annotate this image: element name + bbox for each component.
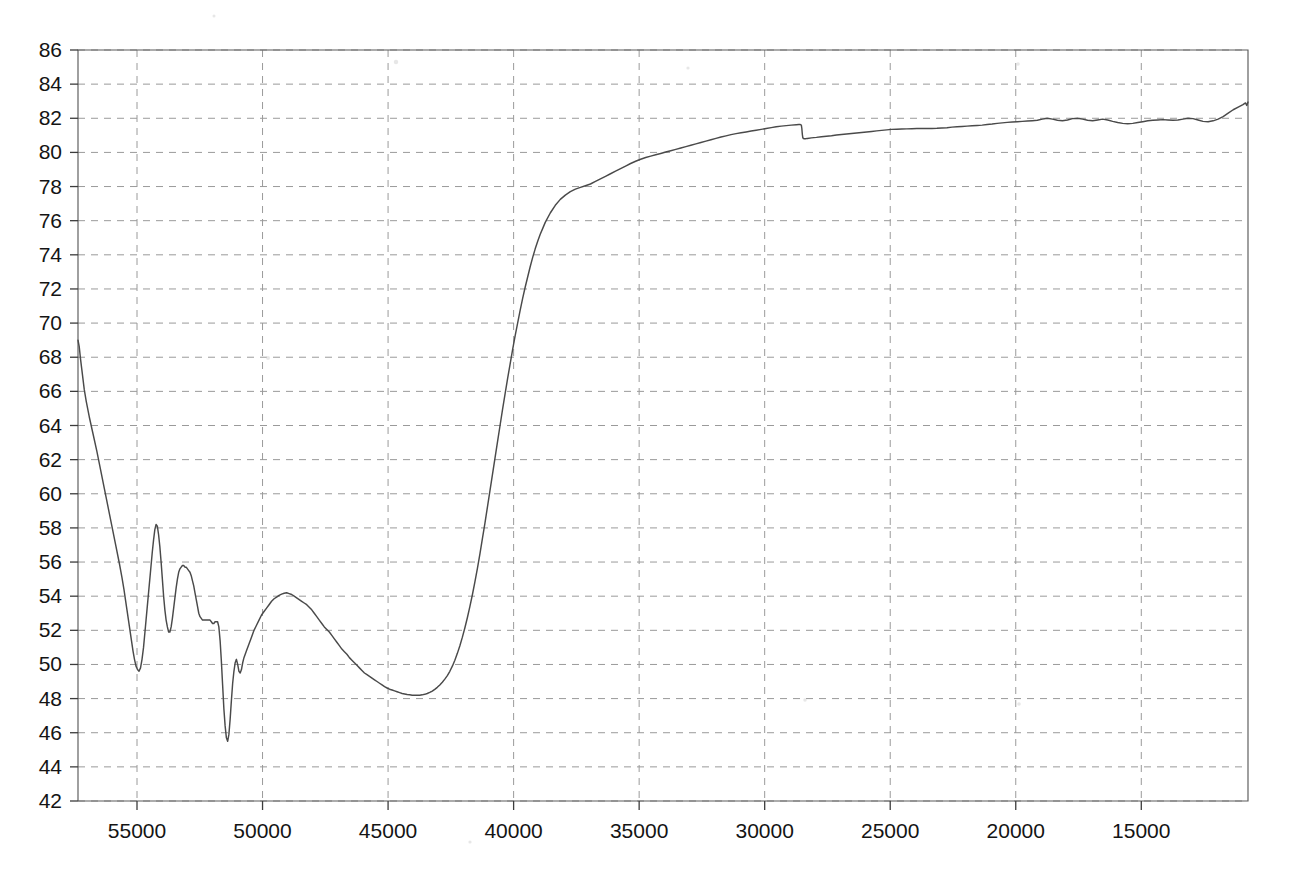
scan-speck xyxy=(394,60,398,64)
y-tick-label: 56 xyxy=(39,550,62,573)
y-tick-label: 72 xyxy=(39,277,62,300)
spectrum-plot-svg: 4244464850525456586062646668707274767880… xyxy=(0,0,1291,873)
x-tick-label: 40000 xyxy=(484,819,542,842)
y-tick-label: 42 xyxy=(39,789,62,812)
y-tick-label: 58 xyxy=(39,516,62,539)
y-tick-label: 70 xyxy=(39,311,62,334)
scan-speck xyxy=(468,840,471,843)
y-tick-label: 52 xyxy=(39,618,62,641)
transmittance-spectrum-chart: 4244464850525456586062646668707274767880… xyxy=(0,0,1291,873)
scan-speck xyxy=(1016,62,1020,66)
scan-speck xyxy=(266,356,270,360)
y-tick-label: 76 xyxy=(39,209,62,232)
y-tick-label: 44 xyxy=(39,755,63,778)
plot-background xyxy=(0,0,1291,873)
y-tick-label: 80 xyxy=(39,140,62,163)
y-tick-label: 78 xyxy=(39,175,62,198)
y-tick-label: 74 xyxy=(39,243,63,266)
scan-speck xyxy=(803,698,806,701)
x-tick-label: 15000 xyxy=(1112,819,1170,842)
x-tick-label: 35000 xyxy=(610,819,668,842)
x-tick-label: 30000 xyxy=(735,819,793,842)
y-tick-label: 86 xyxy=(39,38,62,61)
scan-speck xyxy=(686,66,689,69)
y-tick-label: 60 xyxy=(39,482,62,505)
y-tick-label: 68 xyxy=(39,345,62,368)
y-tick-label: 54 xyxy=(39,584,63,607)
x-tick-label: 45000 xyxy=(359,819,417,842)
x-tick-label: 20000 xyxy=(987,819,1045,842)
y-tick-label: 46 xyxy=(39,721,62,744)
y-tick-label: 64 xyxy=(39,414,63,437)
scan-speck xyxy=(1017,702,1021,706)
y-tick-label: 82 xyxy=(39,106,62,129)
x-tick-label: 25000 xyxy=(861,819,919,842)
x-tick-label: 50000 xyxy=(233,819,291,842)
x-tick-label: 55000 xyxy=(108,819,166,842)
y-tick-label: 50 xyxy=(39,652,62,675)
y-tick-label: 62 xyxy=(39,448,62,471)
scan-speck xyxy=(213,15,216,18)
y-tick-label: 84 xyxy=(39,72,63,95)
y-tick-label: 48 xyxy=(39,687,62,710)
y-tick-label: 66 xyxy=(39,379,62,402)
